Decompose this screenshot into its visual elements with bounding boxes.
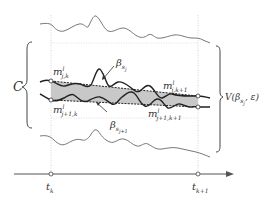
- bracket-right: [216, 46, 223, 152]
- label-beta-sj: βsj: [116, 58, 126, 72]
- envelope-upper: [40, 16, 210, 43]
- tick-tk1: [196, 172, 200, 176]
- node-mj1k1: [196, 105, 200, 109]
- label-m-j1k1: mlj+1,k+1: [148, 108, 182, 121]
- label-tk: tk: [46, 182, 54, 194]
- node-mjk1: [196, 94, 200, 98]
- node-mjk: [49, 79, 53, 83]
- axis-arrowhead: [226, 171, 234, 177]
- label-m-j1k: mlj+1,k: [53, 104, 78, 117]
- label-m-jk1: mlj,k+1: [163, 80, 188, 93]
- label-V: V(βsj, ε): [225, 93, 259, 106]
- label-tk1: tk+1: [192, 182, 209, 194]
- label-beta-sj1: βsj+1: [110, 120, 128, 134]
- brace-left: [22, 42, 32, 128]
- node-mj1k: [49, 98, 53, 102]
- tick-tk: [49, 172, 53, 176]
- label-C: C: [13, 80, 23, 93]
- label-m-jk: mlj,k: [53, 66, 69, 79]
